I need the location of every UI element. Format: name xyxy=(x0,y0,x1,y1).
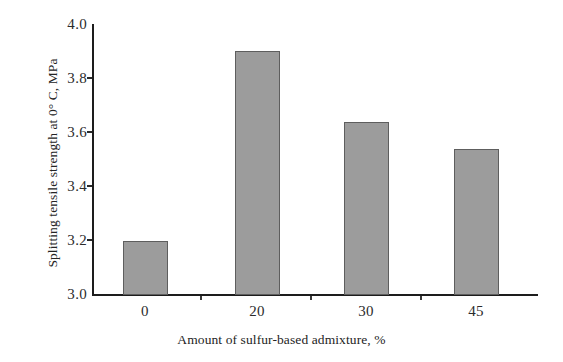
x-tick-label-30: 30 xyxy=(336,303,396,320)
x-tick-mark-3 xyxy=(420,296,422,300)
y-tick-label-3-6: 3.6 xyxy=(43,124,87,141)
x-axis-title: Amount of sulfur-based admixture, % xyxy=(0,332,563,348)
x-tick-mark-2 xyxy=(310,296,312,300)
y-axis-tick-labels: 4.0 3.8 3.6 3.4 3.2 3.0 xyxy=(43,0,87,362)
bar-chart-figure: Splitting tensile strength at 0° C, MPa … xyxy=(0,0,563,362)
x-tick-label-0: 0 xyxy=(115,303,175,320)
y-tick-label-3-0: 3.0 xyxy=(43,286,87,303)
y-tick-label-4-0: 4.0 xyxy=(43,16,87,33)
bar-category-30 xyxy=(344,122,389,295)
y-tick-label-3-4: 3.4 xyxy=(43,178,87,195)
plot-area xyxy=(92,24,538,295)
x-tick-label-20: 20 xyxy=(227,303,287,320)
x-tick-label-45: 45 xyxy=(446,303,506,320)
y-tick-label-3-2: 3.2 xyxy=(43,232,87,249)
x-tick-mark-1 xyxy=(200,296,202,300)
bar-category-0 xyxy=(123,241,168,295)
y-tick-label-3-8: 3.8 xyxy=(43,70,87,87)
bar-category-45 xyxy=(454,149,499,295)
bar-category-20 xyxy=(235,51,280,295)
